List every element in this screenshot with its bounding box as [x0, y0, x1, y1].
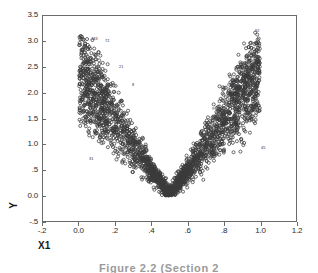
- figure-caption: Figure 2.2 (Section 2: [0, 262, 318, 273]
- x-tick-label: 0.0: [65, 226, 91, 235]
- point-id-label: 45: [261, 146, 265, 150]
- x-tick-label: .6: [175, 226, 201, 235]
- plot-area: 1837221892526394531: [42, 15, 297, 222]
- y-tick-label: 1.5: [12, 114, 38, 123]
- x-tick-label: .8: [211, 226, 237, 235]
- point-id-label: 52: [242, 61, 246, 65]
- y-tick-mark: [42, 67, 46, 68]
- y-tick-label: 1.0: [12, 139, 38, 148]
- x-axis-title: X1: [38, 240, 50, 251]
- scatter-points-layer: [43, 16, 296, 221]
- scatter-svg: [43, 16, 296, 221]
- point-id-label: 63: [227, 83, 231, 87]
- y-tick-label: 2.5: [12, 62, 38, 71]
- point-id-label: 92: [255, 29, 259, 33]
- x-tick-label: 1.2: [284, 226, 310, 235]
- point-id-label: 21: [119, 65, 123, 69]
- y-tick-mark: [42, 15, 46, 16]
- y-tick-mark: [42, 196, 46, 197]
- y-tick-label: 3.0: [12, 36, 38, 45]
- y-tick-label: 3.5: [12, 10, 38, 19]
- point-id-label: 9: [212, 107, 214, 111]
- y-axis-title: Y: [8, 189, 19, 223]
- y-tick-mark: [42, 119, 46, 120]
- x-tick-label: -.2: [29, 226, 55, 235]
- y-tick-mark: [42, 41, 46, 42]
- x-tick-label: .2: [102, 226, 128, 235]
- y-tick-label: .5: [12, 165, 38, 174]
- point-id-label: 31: [89, 157, 93, 161]
- x-tick-label: .4: [138, 226, 164, 235]
- y-tick-mark: [42, 170, 46, 171]
- point-id-label: 183: [92, 37, 98, 41]
- point-id-label: 72: [105, 40, 109, 44]
- figure: 1837221892526394531 3.53.02.52.01.51.0.5…: [0, 0, 318, 273]
- x-tick-label: 1.0: [248, 226, 274, 235]
- y-tick-mark: [42, 144, 46, 145]
- y-tick-label: 2.0: [12, 88, 38, 97]
- y-tick-mark: [42, 93, 46, 94]
